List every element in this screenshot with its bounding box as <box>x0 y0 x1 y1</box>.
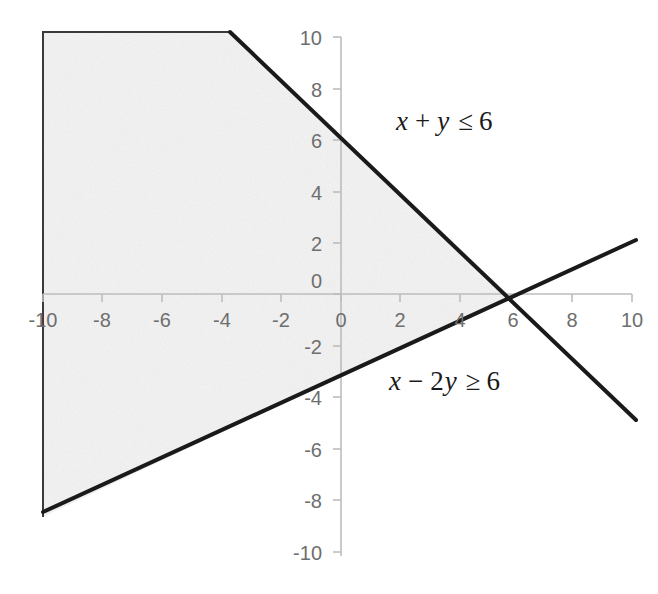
x-tick-label: 2 <box>394 309 405 331</box>
constraint1-var-y: y <box>434 106 449 136</box>
constraint2-operator: − <box>408 366 423 396</box>
y-tick-label: 2 <box>311 233 322 255</box>
x-tick-label: -8 <box>93 309 111 331</box>
constraint1-var-x: x <box>395 106 408 136</box>
x-tick-label: 6 <box>507 309 518 331</box>
x-tick-label: 0 <box>335 309 346 331</box>
y-tick-label: -8 <box>304 490 322 512</box>
constraint2-var-y: y <box>442 366 457 396</box>
y-tick-label: -10 <box>293 542 322 564</box>
x-tick-label: -10 <box>29 309 58 331</box>
x-tick-label: 8 <box>566 309 577 331</box>
y-tick-label: 0 <box>311 270 322 292</box>
constraint1-relation: ≤ <box>458 106 473 136</box>
y-tick-label: 4 <box>311 182 322 204</box>
y-tick-label: 6 <box>311 130 322 152</box>
constraint2-rhs: 6 <box>487 366 501 396</box>
x-tick-label: -4 <box>213 309 231 331</box>
y-tick-label: -2 <box>304 336 322 358</box>
y-tick-label: -6 <box>304 439 322 461</box>
x-tick-label: -6 <box>153 309 171 331</box>
y-tick-label: -4 <box>304 387 322 409</box>
constraint1-operator: + <box>415 106 430 136</box>
x-tick-label: 4 <box>454 309 465 331</box>
constraint2-coefficient: 2 <box>430 366 444 396</box>
x-tick-label: 10 <box>621 309 643 331</box>
y-tick-label: 8 <box>311 79 322 101</box>
constraint1-rhs: 6 <box>479 106 493 136</box>
plot-canvas: -10 -8 -6 -4 -2 0 2 4 6 8 10 10 8 6 4 2 … <box>0 0 658 594</box>
constraint2-var-x: x <box>388 366 401 396</box>
y-tick-label: 10 <box>300 27 322 49</box>
feasible-region-plot: -10 -8 -6 -4 -2 0 2 4 6 8 10 10 8 6 4 2 … <box>0 0 658 594</box>
x-tick-label: -2 <box>272 309 290 331</box>
constraint2-relation: ≥ <box>466 366 481 396</box>
